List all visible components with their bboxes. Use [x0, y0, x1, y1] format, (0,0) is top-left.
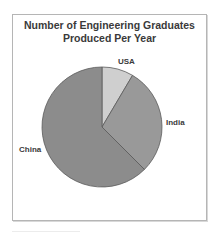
- slice-label-india: India: [166, 118, 185, 127]
- footer-divider: [12, 231, 80, 232]
- pie-chart: [0, 0, 221, 237]
- slice-label-usa: USA: [118, 57, 135, 66]
- pie-slices: [42, 67, 162, 187]
- slice-label-china: China: [19, 145, 41, 154]
